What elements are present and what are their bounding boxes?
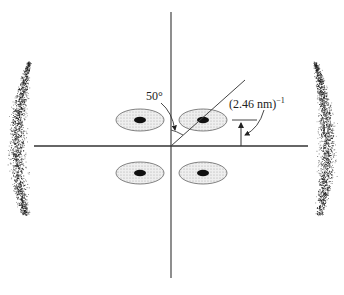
- reflection-upper-left: [116, 109, 164, 131]
- spacing-label: (2.46 nm)−1: [229, 96, 285, 111]
- tilt-direction-line: [171, 80, 245, 146]
- angle-arc: [171, 130, 183, 135]
- angle-label: 50°: [146, 89, 163, 103]
- left-equatorial-arc: [8, 62, 32, 216]
- reflection-lower-right: [179, 162, 227, 184]
- reflection-lower-left: [116, 162, 164, 184]
- spacing-leader-arrow: [245, 110, 264, 135]
- diffraction-diagram: 50° (2.46 nm)−1: [0, 0, 344, 295]
- reflection-upper-right: [179, 109, 227, 131]
- right-equatorial-arc: [314, 62, 339, 216]
